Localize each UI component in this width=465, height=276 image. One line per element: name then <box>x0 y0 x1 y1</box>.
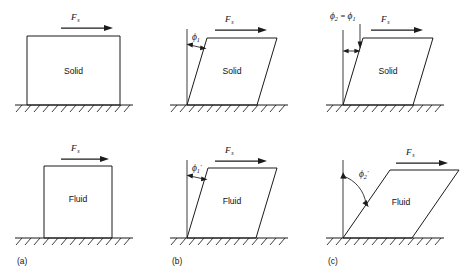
fluid-a-force-label: Fs <box>70 143 80 154</box>
solid-c-angle-label: ϕ2=ϕ1 <box>330 11 356 22</box>
panel-fluid-a: Fs Fluid (a) <box>15 143 133 266</box>
fluid-c-material-label: Fluid <box>392 197 411 207</box>
solid-c-material-label: Solid <box>378 66 397 76</box>
fluid-b-force-label: Fs <box>224 145 234 156</box>
panel-solid-b: ϕ1 Fs Solid <box>170 14 288 112</box>
fluid-a-material-label: Fluid <box>69 194 88 204</box>
solid-a-ground-hatch <box>16 105 130 112</box>
solid-b-force-arrow <box>215 27 267 33</box>
fluid-b-force-arrow <box>215 158 267 164</box>
solid-c-angle-arrow <box>343 49 361 54</box>
panel-label-c: (c) <box>328 256 338 266</box>
fluid-b-angle-arrow <box>187 174 208 182</box>
fluid-b-angle-label: ϕ1′ <box>192 163 202 174</box>
fluid-c-force-label: Fs <box>405 147 415 158</box>
solid-b-angle-label: ϕ1 <box>192 32 200 43</box>
fluid-c-angle-label: ϕ2′ <box>359 169 369 180</box>
solid-a-force-arrow <box>61 25 113 31</box>
solid-c-force-label: Fs <box>380 14 390 25</box>
fluid-c-ground-hatch <box>327 238 441 245</box>
figure-canvas: Fs Solid ϕ1 Fs Solid <box>0 0 465 276</box>
panel-solid-a: Fs Solid <box>15 12 133 112</box>
solid-a-material-label: Solid <box>64 66 83 76</box>
panel-solid-c: ϕ2=ϕ1 Fs Solid <box>326 11 444 112</box>
solid-b-ground-hatch <box>171 105 285 112</box>
panel-label-a: (a) <box>17 256 27 266</box>
fluid-c-force-arrow <box>396 160 448 166</box>
solid-b-force-label: Fs <box>224 14 234 25</box>
fluid-a-ground-hatch <box>16 238 130 245</box>
fluid-b-material-label: Fluid <box>223 196 242 206</box>
solid-a-force-label: Fs <box>70 12 80 23</box>
solid-b-material-label: Solid <box>222 66 241 76</box>
solid-c-force-arrow <box>371 27 423 33</box>
panel-label-b: (b) <box>172 256 182 266</box>
shear-deformation-figure: Fs Solid ϕ1 Fs Solid <box>0 0 465 276</box>
panel-fluid-b: ϕ1′ Fs Fluid (b) <box>170 145 288 266</box>
solid-b-angle-arrow <box>187 43 207 51</box>
solid-c-ground-hatch <box>327 105 441 112</box>
fluid-a-force-arrow <box>61 156 109 162</box>
fluid-b-ground-hatch <box>171 238 285 245</box>
panel-fluid-c: ϕ2′ Fs Fluid (c) <box>326 147 459 266</box>
